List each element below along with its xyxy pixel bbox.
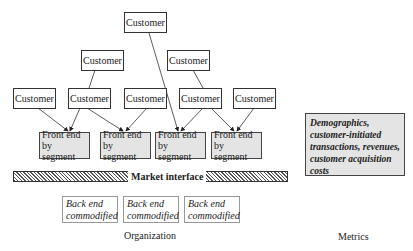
customer-box: Customer xyxy=(124,88,167,109)
customer-box: Customer xyxy=(167,50,210,71)
customer-box: Customer xyxy=(81,50,124,71)
front-end-box: Front end by segment xyxy=(39,132,90,159)
metrics-label: Metrics xyxy=(338,231,369,242)
customer-box: Customer xyxy=(233,88,276,109)
metrics-box: Demographics, customer-initiated transac… xyxy=(305,113,405,176)
back-end-box: Back end commodified xyxy=(62,196,118,223)
back-end-box: Back end commodified xyxy=(123,196,179,223)
diagram-canvas: Customer Customer Customer Customer Cust… xyxy=(0,0,413,251)
front-end-box: Front end by segment xyxy=(100,132,151,159)
customer-box: Customer xyxy=(13,88,56,109)
customer-box: Customer xyxy=(124,12,167,33)
market-interface-label: Market interface xyxy=(128,171,206,182)
market-interface-bar: Market interface xyxy=(13,171,288,182)
front-end-box: Front end by segment xyxy=(155,132,206,159)
front-end-box: Front end by segment xyxy=(211,132,262,159)
customer-box: Customer xyxy=(68,88,111,109)
organization-label: Organization xyxy=(124,230,176,241)
back-end-box: Back end commodified xyxy=(184,196,240,223)
customer-box: Customer xyxy=(179,88,222,109)
